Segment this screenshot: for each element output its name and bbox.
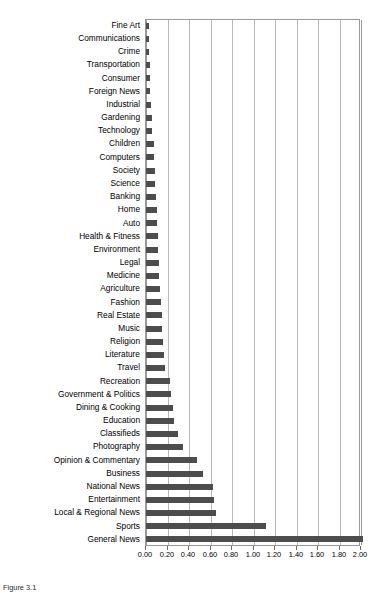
x-tick-label: 0.80 [224, 551, 238, 559]
bar [146, 405, 173, 411]
bar [146, 128, 152, 134]
category-label: Medicine [0, 271, 143, 280]
bar [146, 36, 149, 42]
bar [146, 102, 151, 108]
x-tick-label: 0.40 [181, 551, 195, 559]
bar [146, 181, 155, 187]
category-label: Government & Politics [0, 390, 143, 399]
bar [146, 168, 155, 174]
category-label: Crime [0, 47, 143, 56]
x-tick-label: 0.60 [203, 551, 217, 559]
x-axis: 0.000.200.400.600.801.001.201.401.601.80… [0, 546, 387, 566]
bar [146, 220, 157, 226]
category-label: Religion [0, 337, 143, 346]
x-tick-label: 1.60 [310, 551, 324, 559]
category-label: Classifieds [0, 429, 143, 438]
category-label: Education [0, 416, 143, 425]
bar [146, 141, 154, 147]
bar [146, 510, 216, 516]
bar [146, 75, 150, 81]
bar [146, 523, 266, 529]
x-tick-label: 2.00 [353, 551, 367, 559]
bar [146, 194, 156, 200]
category-label: Photography [0, 442, 143, 451]
bar [146, 536, 363, 542]
bar [146, 49, 149, 55]
category-label: Business [0, 469, 143, 478]
bar [146, 431, 178, 437]
bar [146, 62, 150, 68]
bar [146, 312, 162, 318]
bar [146, 391, 171, 397]
bar-rows-container: Fine ArtCommunicationsCrimeTransportatio… [0, 19, 387, 546]
bar [146, 260, 159, 266]
bar [146, 273, 159, 279]
x-tick-label: 1.80 [332, 551, 346, 559]
bar [146, 207, 157, 213]
bar [146, 339, 163, 345]
category-label: General News [0, 535, 143, 544]
category-label: Recreation [0, 377, 143, 386]
category-label: Society [0, 166, 143, 175]
category-label: Legal [0, 258, 143, 267]
category-label: Auto [0, 219, 143, 228]
bar [146, 233, 158, 239]
bar [146, 378, 170, 384]
x-tick-label: 1.20 [267, 551, 281, 559]
category-label: Opinion & Commentary [0, 456, 143, 465]
category-label: Computers [0, 153, 143, 162]
category-label: Sports [0, 522, 143, 531]
bar [146, 352, 164, 358]
bar [146, 247, 158, 253]
bar [146, 484, 213, 490]
bar [146, 365, 165, 371]
category-label: Entertainment [0, 495, 143, 504]
category-label: Local & Regional News [0, 508, 143, 517]
category-label: Transportation [0, 60, 143, 69]
x-tick-label: 1.00 [246, 551, 260, 559]
category-label: Gardening [0, 113, 143, 122]
bar [146, 154, 154, 160]
category-label: Health & Fitness [0, 232, 143, 241]
bar [146, 497, 214, 503]
bar [146, 457, 197, 463]
bar [146, 115, 152, 121]
category-label: Travel [0, 363, 143, 372]
category-label: Dining & Cooking [0, 403, 143, 412]
bar [146, 418, 174, 424]
category-label: Banking [0, 192, 143, 201]
figure-caption: Figure 3.1 [3, 583, 36, 592]
bar [146, 299, 161, 305]
category-label: Real Estate [0, 311, 143, 320]
category-label: Science [0, 179, 143, 188]
bar-chart-figure: Fine ArtCommunicationsCrimeTransportatio… [0, 0, 387, 593]
x-tick-label: 1.40 [289, 551, 303, 559]
x-tick-label: 0.00 [138, 551, 152, 559]
category-label: Literature [0, 350, 143, 359]
category-label: Consumer [0, 74, 143, 83]
category-label: Home [0, 205, 143, 214]
category-label: National News [0, 482, 143, 491]
category-label: Fashion [0, 298, 143, 307]
category-label: Foreign News [0, 87, 143, 96]
category-label: Fine Art [0, 21, 143, 30]
category-label: Technology [0, 126, 143, 135]
category-label: Environment [0, 245, 143, 254]
bar [146, 326, 162, 332]
category-label: Industrial [0, 100, 143, 109]
bar [146, 286, 160, 292]
category-label: Music [0, 324, 143, 333]
bar [146, 88, 150, 94]
bar [146, 471, 203, 477]
category-label: Agriculture [0, 284, 143, 293]
bar [146, 23, 149, 29]
bar [146, 444, 183, 450]
category-label: Children [0, 139, 143, 148]
category-label: Communications [0, 34, 143, 43]
x-tick-label: 0.20 [160, 551, 174, 559]
